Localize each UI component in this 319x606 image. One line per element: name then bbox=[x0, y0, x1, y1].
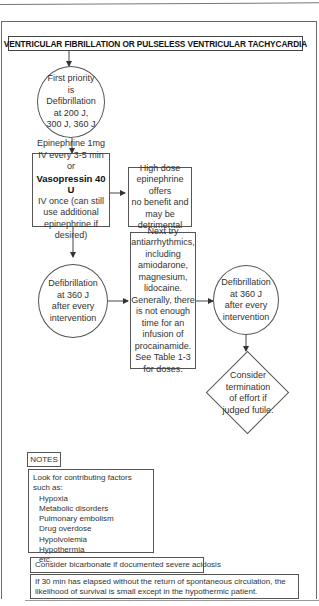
node-text-line: Consider bbox=[222, 370, 273, 382]
first-priority-defibrillation-node: First priority is Defibrillation at 200 … bbox=[37, 66, 105, 138]
node-text-line: use additional bbox=[33, 207, 109, 219]
thirty-minute-note: If 30 min has elapsed without the return… bbox=[30, 574, 299, 599]
node-text-line: time for an bbox=[131, 318, 195, 330]
node-text-line: intervention bbox=[221, 312, 271, 324]
contributing-factors-intro: Look for contributing factors such as: bbox=[33, 473, 149, 494]
epinephrine-vasopressin-box: Epinephrine 1mg IV every 3-5 min or Vaso… bbox=[32, 153, 110, 227]
node-text-line: amiodarone, bbox=[131, 260, 195, 272]
consider-termination-decision: Consider termination of effort if judged… bbox=[206, 351, 290, 435]
node-text-line: antiarrhythmics, bbox=[131, 237, 195, 249]
node-text-line: including bbox=[131, 249, 195, 261]
node-text-line: is bbox=[46, 85, 96, 97]
antiarrhythmics-box: Next try antiarrhythmics, including amio… bbox=[130, 232, 196, 369]
node-text-line: epinephrine if bbox=[33, 219, 109, 231]
vasopressin-dose-text: Vasopressin 40 U bbox=[33, 173, 109, 196]
flowchart-title: VENTRICULAR FIBRILLATION OR PULSELESS VE… bbox=[8, 36, 303, 51]
node-text-line: intervention bbox=[48, 313, 98, 325]
factor-item: Drug overdose bbox=[33, 524, 149, 534]
contributing-factors-box: Look for contributing factors such as: H… bbox=[28, 469, 154, 553]
node-text-line: at 360 J bbox=[48, 290, 98, 302]
node-text-line: for doses. bbox=[131, 364, 195, 376]
node-text-line: judged futile. bbox=[222, 405, 273, 417]
node-text-line: Epinephrine 1mg bbox=[33, 138, 109, 150]
bicarbonate-note: Consider bicarbonate if documented sever… bbox=[30, 557, 204, 573]
page-edge-line bbox=[0, 0, 319, 5]
node-text-line: at 200 J, bbox=[46, 108, 96, 120]
node-text-line: termination bbox=[222, 382, 273, 394]
node-text-line: Next try bbox=[131, 226, 195, 238]
node-text-line: desired) bbox=[33, 230, 109, 242]
node-text-line: See Table 1-3 bbox=[131, 352, 195, 364]
node-text-line: Defibrillation bbox=[221, 277, 271, 289]
node-text-line: may be bbox=[129, 209, 191, 221]
node-text-line: lidocaine. bbox=[131, 283, 195, 295]
notes-label: NOTES bbox=[27, 452, 61, 467]
node-text-line: magnesium, bbox=[131, 272, 195, 284]
high-dose-epinephrine-box: High dose epinephrine offers no benefit … bbox=[128, 167, 192, 227]
node-text-line: epinephrine offers bbox=[129, 174, 191, 197]
figure-frame-bottom bbox=[25, 600, 319, 601]
factor-item: Hypothermia bbox=[33, 545, 149, 555]
decision-text: Consider termination of effort if judged… bbox=[206, 351, 290, 435]
node-text-line: 300 J, 360 J bbox=[46, 119, 96, 131]
factor-item: Hypoxia bbox=[33, 494, 149, 504]
node-text-line: Defibrillation bbox=[46, 96, 96, 108]
node-text-line: procainamide. bbox=[131, 341, 195, 353]
defibrillation-360j-node-2: Defibrillation at 360 J after every inte… bbox=[213, 265, 279, 335]
node-text-line: at 360 J bbox=[221, 289, 271, 301]
factor-item: Hypolvolemia bbox=[33, 535, 149, 545]
factor-item: Pulmonary embolism bbox=[33, 514, 149, 524]
node-text-line: after every bbox=[48, 301, 98, 313]
node-text-line: is not enough bbox=[131, 306, 195, 318]
node-text-line: IV every 3-5 min or bbox=[33, 150, 109, 173]
node-text-line: First priority bbox=[46, 73, 96, 85]
node-text-line: after every bbox=[221, 300, 271, 312]
node-text-line: Generally, there bbox=[131, 295, 195, 307]
node-text-line: IV once (can still bbox=[33, 196, 109, 208]
node-text-line: infusion of bbox=[131, 329, 195, 341]
node-text-line: of effort if bbox=[222, 393, 273, 405]
node-text-line: Defibrillation bbox=[48, 278, 98, 290]
defibrillation-360j-node-1: Defibrillation at 360 J after every inte… bbox=[38, 264, 108, 338]
node-text-line: High dose bbox=[129, 163, 191, 175]
factor-item: Metabolic disorders bbox=[33, 504, 149, 514]
node-text-line: no benefit and bbox=[129, 197, 191, 209]
